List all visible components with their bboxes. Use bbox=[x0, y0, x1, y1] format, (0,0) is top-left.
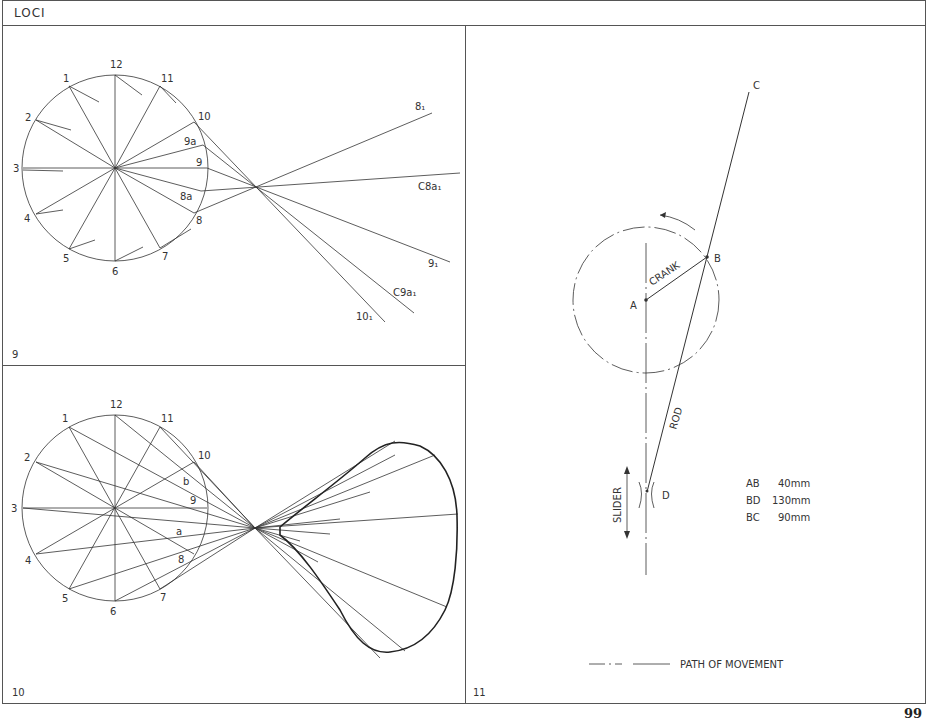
dim-ab-value: 40mm bbox=[778, 478, 810, 489]
crank-label: CRANK bbox=[647, 259, 682, 288]
dim-bd-value: 130mm bbox=[772, 495, 811, 506]
point-d-label: D bbox=[662, 490, 670, 501]
panel-11-drawing: A B C D CRANK ROD SLIDER AB 40mm BD 130m… bbox=[0, 0, 930, 723]
dim-ab-name: AB bbox=[746, 478, 760, 489]
path-of-movement-legend: PATH OF MOVEMENT bbox=[680, 659, 784, 670]
dim-bd-name: BD bbox=[746, 495, 761, 506]
point-a-label: A bbox=[630, 300, 637, 311]
dim-bc-value: 90mm bbox=[778, 512, 810, 523]
point-b-label: B bbox=[714, 253, 721, 264]
slider-label: SLIDER bbox=[612, 487, 623, 523]
point-c-label: C bbox=[753, 80, 760, 91]
dim-bc-name: BC bbox=[746, 512, 760, 523]
rod-label: ROD bbox=[667, 406, 684, 431]
